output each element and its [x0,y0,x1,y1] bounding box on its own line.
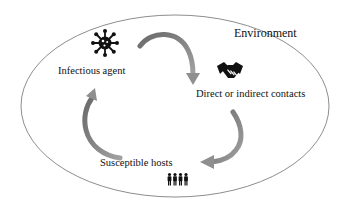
people-icon [168,173,188,186]
arrow-hosts-to-agent [85,88,120,158]
virus-icon [91,29,119,57]
handshake-icon [217,62,243,78]
arrow-agent-to-contacts [140,34,200,85]
node-label-infectious-agent: Infectious agent [58,66,125,77]
node-label-direct-indirect-contacts: Direct or indirect contacts [196,89,305,100]
environment-ellipse [21,15,329,197]
environment-label: Environment [234,27,297,39]
node-label-susceptible-hosts: Susceptible hosts [100,158,173,169]
arrow-contacts-to-hosts [200,112,241,169]
